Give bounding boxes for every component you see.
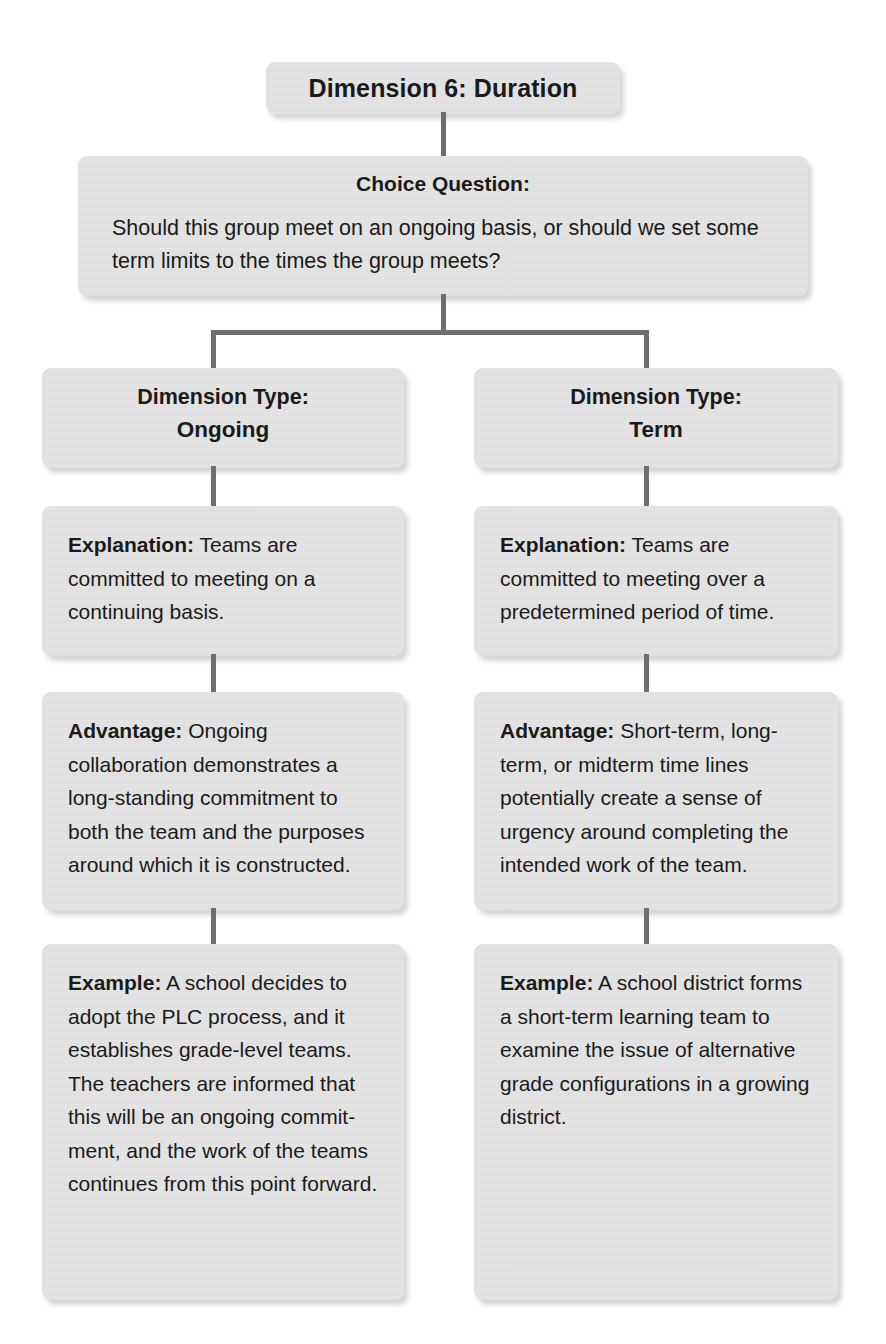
example-text-left: A school decides to adopt the PLC proces… xyxy=(68,971,377,1195)
connector-branch-bar xyxy=(211,330,649,335)
explanation-card-left: Explanation: Teams are committed to meet… xyxy=(42,506,404,656)
example-card-right: Example: A school district forms a short… xyxy=(474,944,838,1300)
dimension-type-label-left: Dimension Type: xyxy=(42,382,404,413)
connector-right-explanation-to-advantage xyxy=(644,654,649,696)
dimension-type-card-ongoing: Dimension Type: Ongoing xyxy=(42,368,404,468)
connector-left-head-to-explanation xyxy=(211,466,216,508)
advantage-label-left: Advantage: xyxy=(68,719,182,742)
connector-left-explanation-to-advantage xyxy=(211,654,216,696)
advantage-label-right: Advantage: xyxy=(500,719,614,742)
choice-question-heading: Choice Question: xyxy=(112,172,774,196)
choice-question-card: Choice Question: Should this group meet … xyxy=(78,156,808,296)
explanation-label-left: Explanation: xyxy=(68,533,194,556)
advantage-text-left: Ongoing collaboration demonstrates a lon… xyxy=(68,719,365,876)
advantage-card-left: Advantage: Ongoing collaboration demonst… xyxy=(42,692,404,910)
dimension-type-value-right: Term xyxy=(474,413,838,446)
connector-branch-left xyxy=(211,330,216,372)
example-label-left: Example: xyxy=(68,971,161,994)
advantage-card-right: Advantage: Short-term, long-term, or mid… xyxy=(474,692,838,910)
connector-question-stem xyxy=(441,294,446,334)
example-text-right: A school district forms a short-term lea… xyxy=(500,971,809,1128)
connector-right-head-to-explanation xyxy=(644,466,649,508)
explanation-card-right: Explanation: Teams are committed to meet… xyxy=(474,506,838,656)
connector-title-to-question xyxy=(441,112,446,160)
diagram-title-card: Dimension 6: Duration xyxy=(266,62,620,114)
dimension-type-card-term: Dimension Type: Term xyxy=(474,368,838,468)
connector-branch-right xyxy=(644,330,649,372)
advantage-text-right: Short-term, long-term, or midterm time l… xyxy=(500,719,788,876)
example-label-right: Example: xyxy=(500,971,593,994)
dimension-type-value-left: Ongoing xyxy=(42,413,404,446)
dimension-type-label-right: Dimension Type: xyxy=(474,382,838,413)
choice-question-text: Should this group meet on an ongoing bas… xyxy=(112,212,774,278)
page-title: Dimension 6: Duration xyxy=(309,74,578,103)
example-card-left: Example: A school decides to adopt the P… xyxy=(42,944,404,1300)
explanation-label-right: Explanation: xyxy=(500,533,626,556)
